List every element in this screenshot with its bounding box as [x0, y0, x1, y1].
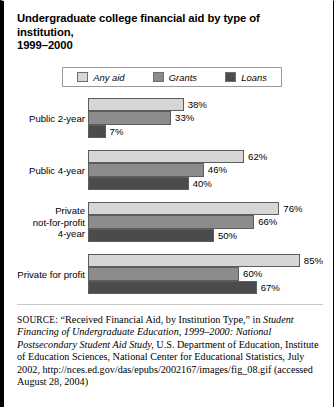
bar: [88, 98, 184, 111]
bar-row: 85%: [88, 254, 323, 267]
bar: [88, 150, 244, 163]
bar-value-label: 76%: [283, 203, 302, 214]
bar-value-label: 33%: [175, 112, 194, 123]
bar-value-label: 85%: [304, 255, 323, 266]
chart-group: Privatenot-for-profit4-year76%66%50%: [17, 201, 323, 244]
chart-group: Public 2-year38%33%7%: [17, 97, 323, 140]
bar-row: 40%: [88, 177, 323, 190]
legend-swatch-loans: [225, 72, 236, 82]
category-label-line: Private for profit: [17, 269, 85, 281]
bar-row: 38%: [88, 98, 323, 111]
bar: [88, 281, 257, 294]
category-label-line: Public 2-year: [29, 113, 85, 125]
source-segment: “Received Financial Aid, by Institution …: [58, 314, 263, 325]
page-title-line-1: Undergraduate college financial aid by t…: [17, 12, 319, 39]
bar-row: 50%: [88, 229, 323, 242]
bar-value-label: 40%: [193, 178, 212, 189]
bar-value-label: 66%: [258, 216, 277, 227]
bar: [88, 215, 254, 228]
source-label: SOURCE:: [17, 315, 58, 325]
bar: [88, 177, 189, 190]
chart-legend: Any aidGrantsLoans: [62, 67, 282, 87]
legend-swatch-grants: [153, 72, 164, 82]
category-label: Public 2-year: [17, 97, 85, 140]
legend-item-label: Loans: [241, 72, 267, 83]
bar-value-label: 50%: [218, 230, 237, 241]
chart-plot-area: Public 2-year38%33%7%Public 4-year62%46%…: [17, 97, 323, 302]
legend-item: Any aid: [77, 72, 124, 83]
bar: [88, 202, 279, 215]
bar-row: 62%: [88, 150, 323, 163]
bar-value-label: 60%: [243, 268, 262, 279]
bar-stack: 38%33%7%: [88, 98, 323, 139]
bar-row: 60%: [88, 267, 323, 280]
legend-item: Grants: [153, 72, 197, 83]
legend-item-label: Any aid: [93, 72, 124, 83]
bar-row: 67%: [88, 281, 323, 294]
category-label: Public 4-year: [17, 149, 85, 192]
category-label-line: not-for-profit: [33, 217, 85, 229]
bar: [88, 267, 239, 280]
source-note: SOURCE: “Received Financial Aid, by Inst…: [17, 314, 325, 388]
plot-bottom-rule: [17, 304, 323, 305]
bar-value-label: 67%: [261, 282, 280, 293]
category-label-line: Private: [55, 205, 85, 217]
legend-swatch-any-aid: [77, 72, 88, 82]
bar-row: 76%: [88, 202, 323, 215]
bar: [88, 254, 300, 267]
bar: [88, 111, 171, 124]
bar-value-label: 7%: [110, 126, 124, 137]
bar-stack: 62%46%40%: [88, 150, 323, 191]
bar: [88, 163, 204, 176]
bar-row: 33%: [88, 111, 323, 124]
legend-item-label: Grants: [169, 72, 197, 83]
page-title-line-2: 1999–2000: [17, 39, 319, 53]
bar: [88, 229, 214, 242]
figure-container: Undergraduate college financial aid by t…: [0, 0, 334, 407]
bar-row: 46%: [88, 163, 323, 176]
bar-row: 7%: [88, 125, 323, 138]
bar-stack: 85%60%67%: [88, 254, 323, 295]
figure-title: Undergraduate college financial aid by t…: [4, 1, 333, 53]
category-label: Privatenot-for-profit4-year: [17, 201, 85, 244]
bar-stack: 76%66%50%: [88, 202, 323, 243]
legend-item: Loans: [225, 72, 267, 83]
bar-row: 66%: [88, 215, 323, 228]
chart-group: Public 4-year62%46%40%: [17, 149, 323, 192]
bar-value-label: 46%: [208, 164, 227, 175]
category-label: Private for profit: [17, 253, 85, 296]
category-label-line: Public 4-year: [29, 165, 85, 177]
category-label-line: 4-year: [58, 228, 85, 240]
bar-value-label: 62%: [248, 151, 267, 162]
bar: [88, 125, 106, 138]
bar-value-label: 38%: [188, 99, 207, 110]
chart-group: Private for profit85%60%67%: [17, 253, 323, 296]
